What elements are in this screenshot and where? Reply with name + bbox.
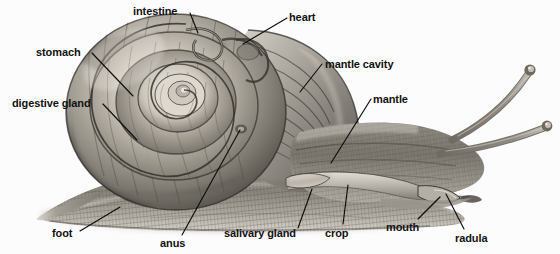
label-digestive-gland: digestive gland: [12, 97, 91, 109]
tentacles: [440, 64, 552, 154]
label-crop: crop: [325, 227, 348, 239]
label-heart: heart: [289, 11, 315, 23]
label-mouth: mouth: [386, 221, 419, 233]
label-stomach: stomach: [36, 46, 81, 58]
label-salivary-gland: salivary gland: [224, 227, 296, 239]
snail-anatomy-figure: intestine heart stomach mantle cavity di…: [0, 0, 560, 254]
label-intestine: intestine: [133, 5, 177, 17]
label-mantle-cavity: mantle cavity: [325, 58, 393, 70]
snail-illustration: [0, 0, 560, 254]
label-foot: foot: [52, 227, 72, 239]
label-radula: radula: [455, 232, 487, 244]
label-anus: anus: [160, 237, 185, 249]
label-mantle: mantle: [373, 93, 408, 105]
anus-region: [235, 125, 247, 134]
